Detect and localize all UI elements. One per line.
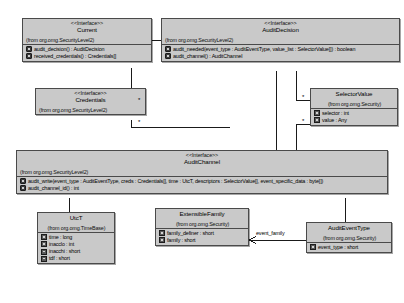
attribute-compartment-extensiblefamily: family_definer : short family : short <box>156 229 248 245</box>
package-label: (from org.omg.SecurityLevel2) <box>17 168 387 176</box>
class-name-label: Current <box>26 27 148 34</box>
method-icon <box>20 178 26 184</box>
attribute-icon <box>159 230 165 236</box>
member-text: audit_channel() : AuditChannel <box>173 53 242 60</box>
association-label-event-family: event_family <box>256 231 284 236</box>
attribute-icon <box>41 249 47 255</box>
class-name-label: UtcT <box>41 215 111 222</box>
package-label: (from org.omg.Security) <box>311 100 397 108</box>
member-text: audit_needed(event_type : AuditEventType… <box>173 46 355 53</box>
member-text: family : short <box>167 237 195 244</box>
class-name-label: AuditDecision <box>165 27 396 34</box>
class-member: audit_decision() : AuditDecision <box>26 46 149 53</box>
package-label: (from org.omg.Security) <box>156 220 248 228</box>
member-text: audit_channel_id() : int <box>28 185 79 192</box>
attribute-compartment-auditeventtype: event_type : short <box>307 243 391 252</box>
class-box-extensiblefamily[interactable]: ExtensibleFamily (from org.omg.Security)… <box>155 208 249 246</box>
class-header-auditeventtype: AuditEventType <box>307 223 391 234</box>
class-member: value : Any <box>314 117 395 124</box>
class-header-extensiblefamily: ExtensibleFamily <box>156 209 248 220</box>
package-label: (from org.omg.SecurityLevel2) <box>36 106 145 114</box>
method-icon <box>20 185 26 191</box>
multiplicity-marker-selectorvalue-lower: * <box>302 118 304 124</box>
arrowhead-event-family <box>249 237 256 244</box>
class-member: tdf : short <box>41 255 112 262</box>
member-text: audit_decision() : AuditDecision <box>34 46 104 53</box>
class-member: event_type : short <box>310 244 389 251</box>
class-header-utct: UtcT <box>38 213 114 224</box>
member-text: family_definer : short <box>167 230 214 237</box>
attribute-icon <box>41 234 47 240</box>
class-name-label: Credentials <box>39 97 142 104</box>
member-text: tdf : short <box>49 255 70 262</box>
class-box-selectorvalue[interactable]: SelectorValue (from org.omg.Security) se… <box>310 88 398 126</box>
attribute-icon <box>159 237 165 243</box>
package-label: (from org.omg.TimeBase) <box>38 224 114 232</box>
member-text: audit_write(event_type : AuditEventType,… <box>28 178 323 185</box>
class-box-auditeventtype[interactable]: AuditEventType (from org.omg.Security) e… <box>306 222 392 253</box>
class-header-credentials: <<Interface>> Credentials <box>36 89 145 106</box>
uml-class-diagram: <<Interface>> Current (from org.omg.Secu… <box>0 0 404 303</box>
class-header-auditchannel: <<Interface>> AuditChannel <box>17 151 387 168</box>
class-box-auditdecision[interactable]: <<Interface>> AuditDecision (from org.om… <box>161 18 400 62</box>
class-header-current: <<Interface>> Current <box>23 19 151 36</box>
class-box-current[interactable]: <<Interface>> Current (from org.omg.Secu… <box>22 18 152 62</box>
class-header-selectorvalue: SelectorValue <box>311 89 397 100</box>
method-icon <box>165 46 171 52</box>
package-label: (from org.omg.SecurityLevel2) <box>23 36 151 44</box>
class-box-credentials[interactable]: <<Interface>> Credentials (from org.omg.… <box>35 88 146 115</box>
class-name-label: AuditEventType <box>310 225 388 232</box>
attribute-icon <box>41 241 47 247</box>
member-text: time : long <box>49 234 72 241</box>
member-text: event_type : short <box>318 244 358 251</box>
member-text: inacchi : short <box>49 248 80 255</box>
class-box-auditchannel[interactable]: <<Interface>> AuditChannel (from org.omg… <box>16 150 388 194</box>
method-icon <box>26 46 32 52</box>
link-credentials-auditchannel <box>131 120 230 127</box>
class-box-utct[interactable]: UtcT (from org.omg.TimeBase) time : long… <box>37 212 115 264</box>
class-member: received_credentials() : Credentials[] <box>26 53 149 60</box>
attribute-icon <box>310 244 316 250</box>
class-name-label: SelectorValue <box>314 91 394 98</box>
method-icon <box>26 53 32 59</box>
multiplicity-marker-credentials-upper: * <box>138 97 140 103</box>
class-member: family : short <box>159 237 246 244</box>
class-member: inacchi : short <box>41 248 112 255</box>
member-text: received_credentials() : Credentials[] <box>34 53 116 60</box>
package-label: (from org.omg.Security) <box>307 234 391 242</box>
member-text: value : Any <box>322 117 347 124</box>
class-header-auditdecision: <<Interface>> AuditDecision <box>162 19 399 36</box>
attribute-compartment-selectorvalue: selector : int value : Any <box>311 109 397 125</box>
package-label: (from org.omg.SecurityLevel2) <box>162 36 399 44</box>
class-name-label: AuditChannel <box>20 159 384 166</box>
class-member: audit_write(event_type : AuditEventType,… <box>20 178 385 185</box>
method-icon <box>165 53 171 59</box>
member-text: selector : int <box>322 110 349 117</box>
multiplicity-marker-credentials-lower: * <box>138 119 140 125</box>
class-member: audit_needed(event_type : AuditEventType… <box>165 46 397 53</box>
class-member: inacclo : int <box>41 241 112 248</box>
attribute-icon <box>314 110 320 116</box>
member-text: inacclo : int <box>49 241 74 248</box>
class-member: audit_channel_id() : int <box>20 185 385 192</box>
link-auditchannel-selectorvalue <box>296 124 310 150</box>
attribute-compartment-utct: time : long inacclo : int inacchi : shor… <box>38 233 114 264</box>
method-compartment-current: audit_decision() : AuditDecision receive… <box>23 45 151 61</box>
method-compartment-auditdecision: audit_needed(event_type : AuditEventType… <box>162 45 399 61</box>
multiplicity-marker-selectorvalue-upper: * <box>302 94 304 100</box>
attribute-icon <box>41 256 47 262</box>
class-member: audit_channel() : AuditChannel <box>165 53 397 60</box>
class-member: time : long <box>41 234 112 241</box>
method-compartment-auditchannel: audit_write(event_type : AuditEventType,… <box>17 177 387 193</box>
class-name-label: ExtensibleFamily <box>159 211 245 218</box>
class-member: selector : int <box>314 110 395 117</box>
attribute-icon <box>314 117 320 123</box>
class-member: family_definer : short <box>159 230 246 237</box>
